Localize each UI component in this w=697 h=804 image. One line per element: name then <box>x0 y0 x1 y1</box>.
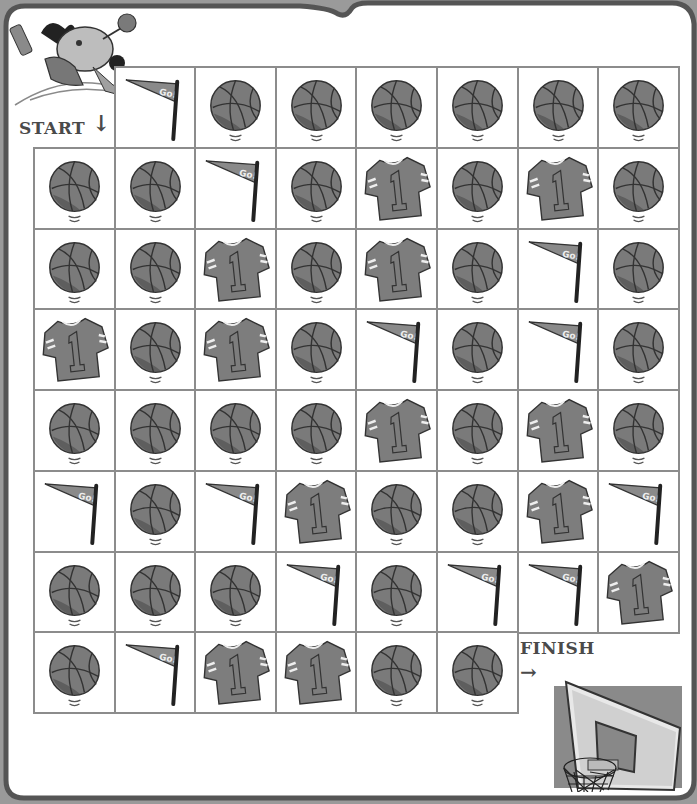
maze-cell-flag[interactable] <box>194 147 277 230</box>
maze-cell-jersey[interactable] <box>517 389 600 472</box>
jersey-icon <box>196 310 275 389</box>
basketball-icon <box>35 149 114 228</box>
maze-cell-ball[interactable] <box>275 66 358 149</box>
basketball-icon <box>599 68 678 147</box>
maze-cell-ball[interactable] <box>436 389 519 472</box>
maze-cell-ball[interactable] <box>194 66 277 149</box>
basketball-icon <box>196 553 275 632</box>
jersey-icon <box>277 633 356 712</box>
maze-cell-ball[interactable] <box>436 228 519 311</box>
basketball-icon <box>438 391 517 470</box>
maze-cell-ball[interactable] <box>597 66 680 149</box>
basketball-icon <box>357 472 436 551</box>
basketball-icon <box>35 553 114 632</box>
maze-cell-ball[interactable] <box>436 308 519 391</box>
maze-cell-ball[interactable] <box>33 228 116 311</box>
finish-arrow-icon: → <box>520 660 537 684</box>
maze-cell-flag[interactable] <box>275 551 358 634</box>
maze-cell-ball[interactable] <box>436 147 519 230</box>
maze-cell-flag[interactable] <box>517 228 600 311</box>
maze-cell-flag[interactable] <box>114 66 197 149</box>
jersey-icon <box>357 391 436 470</box>
basketball-icon <box>438 472 517 551</box>
maze-cell-ball[interactable] <box>355 631 438 714</box>
maze-cell-ball[interactable] <box>114 228 197 311</box>
maze-cell-ball[interactable] <box>33 147 116 230</box>
maze-cell-flag[interactable] <box>597 470 680 553</box>
jersey-icon <box>519 472 598 551</box>
jersey-icon <box>519 149 598 228</box>
maze-cell-flag[interactable] <box>114 631 197 714</box>
maze-cell-ball[interactable] <box>597 147 680 230</box>
maze-cell-ball[interactable] <box>436 66 519 149</box>
maze-cell-ball[interactable] <box>275 389 358 472</box>
pennant-flag-icon <box>277 553 356 632</box>
pennant-flag-icon <box>116 68 195 147</box>
basketball-icon <box>438 310 517 389</box>
basketball-icon <box>35 391 114 470</box>
maze-cell-ball[interactable] <box>33 551 116 634</box>
maze-cell-ball[interactable] <box>33 631 116 714</box>
maze-cell-jersey[interactable] <box>33 308 116 391</box>
basketball-icon <box>599 149 678 228</box>
maze-cell-jersey[interactable] <box>355 228 438 311</box>
jersey-icon <box>519 391 598 470</box>
basketball-icon <box>438 230 517 309</box>
maze-cell-flag[interactable] <box>355 308 438 391</box>
maze-cell-ball[interactable] <box>194 551 277 634</box>
maze-cell-jersey[interactable] <box>517 147 600 230</box>
maze-cell-ball[interactable] <box>597 389 680 472</box>
maze-cell-jersey[interactable] <box>194 308 277 391</box>
maze-cell-ball[interactable] <box>33 389 116 472</box>
maze-cell-flag[interactable] <box>517 308 600 391</box>
maze-cell-ball[interactable] <box>114 308 197 391</box>
maze-cell-ball[interactable] <box>355 551 438 634</box>
basketball-icon <box>196 391 275 470</box>
maze-cell-flag[interactable] <box>33 470 116 553</box>
jersey-icon <box>35 310 114 389</box>
maze-cell-jersey[interactable] <box>517 470 600 553</box>
jersey-icon <box>599 553 678 632</box>
maze-cell-ball[interactable] <box>194 389 277 472</box>
basketball-icon <box>277 149 356 228</box>
basketball-icon <box>116 230 195 309</box>
basketball-icon <box>277 310 356 389</box>
basketball-icon <box>277 68 356 147</box>
maze-cell-flag[interactable] <box>194 470 277 553</box>
basketball-icon <box>438 149 517 228</box>
maze-cell-jersey[interactable] <box>355 389 438 472</box>
maze-cell-ball[interactable] <box>114 389 197 472</box>
maze-cell-jersey[interactable] <box>597 551 680 634</box>
start-label: START <box>19 118 85 138</box>
maze-cell-ball[interactable] <box>355 470 438 553</box>
maze-cell-flag[interactable] <box>436 551 519 634</box>
maze-cell-ball[interactable] <box>114 147 197 230</box>
maze-cell-ball[interactable] <box>355 66 438 149</box>
maze-cell-ball[interactable] <box>114 551 197 634</box>
maze-cell-jersey[interactable] <box>275 631 358 714</box>
maze-cell-jersey[interactable] <box>194 631 277 714</box>
basketball-icon <box>196 68 275 147</box>
pennant-flag-icon <box>196 149 275 228</box>
maze-cell-jersey[interactable] <box>355 147 438 230</box>
maze-cell-ball[interactable] <box>597 228 680 311</box>
maze-cell-jersey[interactable] <box>194 228 277 311</box>
maze-cell-ball[interactable] <box>436 470 519 553</box>
pennant-flag-icon <box>519 230 598 309</box>
maze-cell-ball[interactable] <box>114 470 197 553</box>
basketball-icon <box>277 230 356 309</box>
maze-cell-jersey[interactable] <box>275 470 358 553</box>
maze-cell-ball[interactable] <box>275 308 358 391</box>
maze-cell-ball[interactable] <box>517 66 600 149</box>
basketball-icon <box>116 149 195 228</box>
pennant-flag-icon <box>35 472 114 551</box>
maze-cell-ball[interactable] <box>436 631 519 714</box>
jersey-icon <box>196 230 275 309</box>
maze-cell-ball[interactable] <box>275 228 358 311</box>
maze-cell-ball[interactable] <box>597 308 680 391</box>
maze-cell-flag[interactable] <box>517 551 600 634</box>
pennant-flag-icon <box>357 310 436 389</box>
basketball-icon <box>357 633 436 712</box>
start-arrow-icon: ↓ <box>92 110 111 136</box>
maze-cell-ball[interactable] <box>275 147 358 230</box>
